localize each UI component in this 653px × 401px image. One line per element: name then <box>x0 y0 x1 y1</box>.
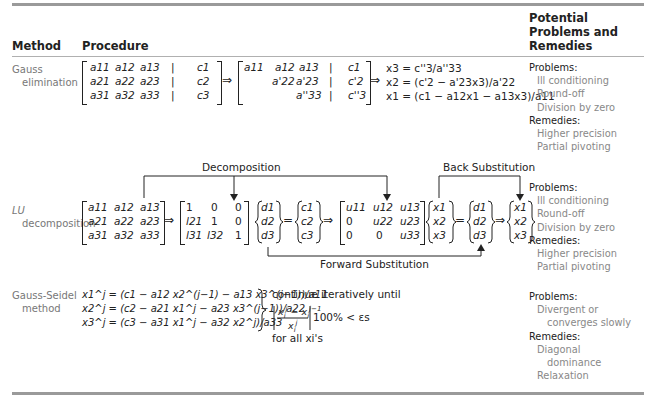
forward-substitution-connector <box>268 247 481 256</box>
problems-remedies-gauss-seidel: Problems: Divergent or converges slowly … <box>529 290 631 382</box>
decomposition-connector <box>144 176 387 198</box>
for-all-label: for all xi's <box>272 332 323 344</box>
brace-left <box>467 201 474 243</box>
brace-right <box>449 201 456 243</box>
method-gauss-seidel: Gauss-Seidel method <box>12 289 77 315</box>
back-substitution-connector <box>439 176 520 198</box>
arrowhead-down <box>383 194 391 201</box>
remedy-item: Partial pivoting <box>529 260 617 273</box>
brace-left <box>426 201 433 243</box>
brace-left <box>255 201 262 243</box>
brace-left <box>295 201 302 243</box>
brace-right <box>316 201 323 243</box>
arrowhead-up <box>477 244 485 251</box>
problem-item: converges slowly <box>529 316 631 329</box>
problems-label: Problems: <box>529 290 631 303</box>
arrowhead-down <box>230 194 238 201</box>
brace-left <box>507 201 514 243</box>
problem-item: Divergent or <box>529 303 631 316</box>
remedy-item: Higher precision <box>529 247 617 260</box>
remedy-item: Diagonal <box>529 343 631 356</box>
method-line: Gauss-Seidel <box>12 289 77 302</box>
remedies-label: Remedies: <box>529 234 617 247</box>
brace-right <box>488 201 495 243</box>
convergence-criterion: 100% < εs <box>313 311 370 323</box>
problem-item: Ill conditioning <box>529 194 617 207</box>
remedies-label: Remedies: <box>529 330 631 343</box>
arrowhead-down <box>516 194 524 201</box>
problems-label: Problems: <box>529 181 617 194</box>
remedy-item: Relaxation <box>529 369 631 382</box>
brace-right <box>276 201 283 243</box>
condition-intro: continue iteratively until <box>272 288 401 300</box>
method-line: method <box>12 302 77 315</box>
problems-remedies-lu: Problems: Ill conditioning Round-off Div… <box>529 181 617 273</box>
problem-item: Round-off <box>529 207 617 220</box>
problem-item: Division by zero <box>529 221 617 234</box>
remedy-item: dominance <box>529 356 631 369</box>
